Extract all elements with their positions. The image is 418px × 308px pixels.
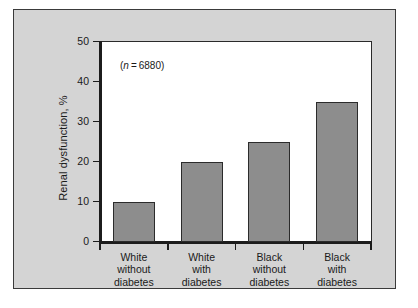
y-axis-tick xyxy=(93,201,100,203)
x-axis-category-label: Whitewithdiabetes xyxy=(165,251,239,288)
x-axis-category-line: without xyxy=(232,263,306,275)
x-axis-category-line: Black xyxy=(232,251,306,263)
x-axis-tick xyxy=(370,243,372,250)
x-axis-tick xyxy=(303,243,305,250)
x-axis-category-line: without xyxy=(97,263,171,275)
plot-frame-top xyxy=(100,41,372,42)
bar xyxy=(181,162,223,242)
figure-root: 01020304050 Renal dysfunction, % Whitewi… xyxy=(0,0,418,308)
x-axis-category-label: Blackwithoutdiabetes xyxy=(232,251,306,288)
bar xyxy=(316,102,358,242)
x-axis-category-line: diabetes xyxy=(300,276,374,288)
figure-panel: 01020304050 Renal dysfunction, % Whitewi… xyxy=(13,9,396,289)
x-axis-category-line: with xyxy=(300,263,374,275)
x-axis-category-line: Black xyxy=(300,251,374,263)
y-axis-tick xyxy=(93,81,100,83)
x-axis-category-line: White xyxy=(165,251,239,263)
bar xyxy=(248,142,290,242)
y-axis-line xyxy=(99,41,102,243)
x-axis-tick xyxy=(99,243,101,250)
x-axis-category-line: diabetes xyxy=(165,276,239,288)
x-axis-tick xyxy=(167,243,169,250)
x-axis-category-line: with xyxy=(165,263,239,275)
bar xyxy=(113,202,155,242)
x-axis-tick xyxy=(235,243,237,250)
y-axis-tick xyxy=(93,161,100,163)
y-axis-tick-label: 50 xyxy=(63,36,89,47)
x-axis-category-label: Blackwithdiabetes xyxy=(300,251,374,288)
x-axis-category-label: Whitewithoutdiabetes xyxy=(97,251,171,288)
sample-size-symbol: n xyxy=(123,60,129,71)
y-axis-tick xyxy=(93,121,100,123)
x-axis-category-line: diabetes xyxy=(97,276,171,288)
y-axis-tick xyxy=(93,41,100,43)
plot-frame-right xyxy=(371,41,372,242)
x-axis-category-line: White xyxy=(97,251,171,263)
x-axis-category-line: diabetes xyxy=(232,276,306,288)
y-axis-tick-label: 0 xyxy=(63,236,89,247)
sample-size-annotation: (n = 6880) xyxy=(120,60,164,71)
y-axis-title: Renal dysfunction, % xyxy=(57,78,69,218)
